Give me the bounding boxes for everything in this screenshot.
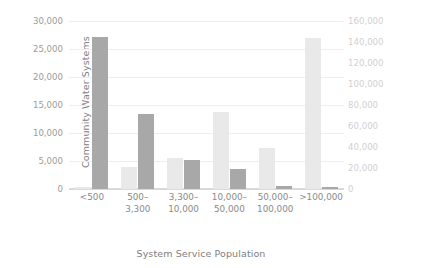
x-axis-tick-labels: <500500– 3,3003,300– 10,00010,000– 50,00… bbox=[69, 192, 344, 226]
bar-series-group bbox=[69, 21, 344, 189]
y-axis-right-tick-label: 160,000 bbox=[348, 16, 384, 26]
x-axis-title: System Service Population bbox=[56, 248, 346, 259]
y-axis-right-ticks: 020,00040,00060,00080,000100,000120,0001… bbox=[348, 21, 408, 189]
bar-group bbox=[161, 21, 207, 189]
y-axis-left-tick-label: 25,000 bbox=[33, 44, 63, 54]
y-axis-right-tick-label: 60,000 bbox=[348, 121, 378, 131]
x-axis-tick-label: <500 bbox=[69, 192, 115, 226]
bar-population-served bbox=[213, 112, 229, 189]
bar-community-water-systems bbox=[92, 37, 108, 189]
bar-population-served bbox=[167, 158, 183, 190]
bar-community-water-systems bbox=[322, 187, 338, 189]
x-axis-tick-label: 50,000– 100,000 bbox=[252, 192, 298, 226]
gridline bbox=[69, 189, 344, 190]
bar-community-water-systems bbox=[184, 160, 200, 189]
y-axis-left-ticks: 05,00010,00015,00020,00025,00030,000 bbox=[0, 21, 63, 189]
bar-group bbox=[252, 21, 298, 189]
bar-population-served bbox=[121, 167, 137, 189]
chart-container: Community Water Systems Total Population… bbox=[0, 0, 428, 268]
bar-community-water-systems bbox=[276, 186, 292, 189]
y-axis-left-tick-label: 10,000 bbox=[33, 128, 63, 138]
y-axis-left-tick-label: 30,000 bbox=[33, 16, 63, 26]
bar-group bbox=[69, 21, 115, 189]
bar-population-served bbox=[259, 148, 275, 189]
bar-group bbox=[115, 21, 161, 189]
bar-group bbox=[206, 21, 252, 189]
y-axis-left-tick-label: 0 bbox=[58, 184, 63, 194]
y-axis-right-tick-label: 140,000 bbox=[348, 37, 384, 47]
y-axis-left-tick-label: 15,000 bbox=[33, 100, 63, 110]
x-axis-tick-label: 500– 3,300 bbox=[115, 192, 161, 226]
y-axis-right-tick-label: 40,000 bbox=[348, 142, 378, 152]
plot-area bbox=[69, 21, 344, 189]
y-axis-right-tick-label: 120,000 bbox=[348, 58, 384, 68]
bar-population-served bbox=[305, 38, 321, 189]
y-axis-right-tick-label: 80,000 bbox=[348, 100, 378, 110]
x-axis-tick-label: 3,300– 10,000 bbox=[161, 192, 207, 226]
y-axis-left-tick-label: 20,000 bbox=[33, 72, 63, 82]
x-axis-tick-label: >100,000 bbox=[298, 192, 344, 226]
bar-community-water-systems bbox=[230, 169, 246, 189]
y-axis-right-tick-label: 100,000 bbox=[348, 79, 384, 89]
y-axis-left-tick-label: 5,000 bbox=[38, 156, 63, 166]
bar-community-water-systems bbox=[138, 114, 154, 189]
y-axis-right-tick-label: 20,000 bbox=[348, 163, 378, 173]
x-axis-tick-label: 10,000– 50,000 bbox=[206, 192, 252, 226]
bar-group bbox=[298, 21, 344, 189]
bar-population-served bbox=[75, 187, 91, 189]
y-axis-right-tick-label: 0 bbox=[348, 184, 353, 194]
